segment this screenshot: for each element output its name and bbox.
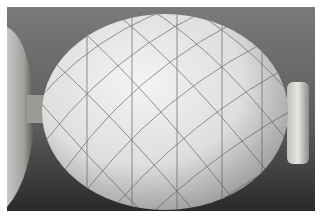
egg-photo bbox=[7, 7, 315, 211]
